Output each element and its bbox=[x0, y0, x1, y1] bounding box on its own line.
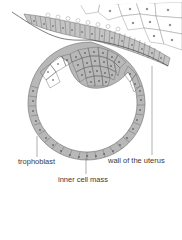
label-wall-of-the-uterus: wall of the uterus bbox=[108, 157, 165, 165]
label-inner-cell-mass: inner cell mass bbox=[58, 176, 108, 184]
label-trophoblast: trophoblast bbox=[18, 158, 55, 166]
blastocyst bbox=[28, 42, 145, 160]
